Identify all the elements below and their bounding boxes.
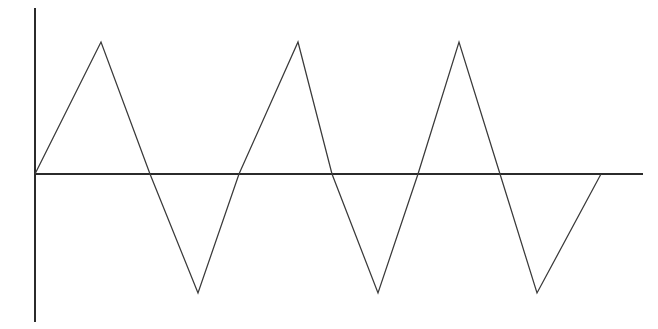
plot-svg (0, 0, 658, 329)
plot-canvas (0, 0, 658, 329)
